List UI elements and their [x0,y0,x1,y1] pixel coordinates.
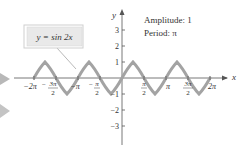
x-tick-neg-3pi2-num: 3π [48,80,57,88]
x-tick-3pi2-den: 2 [186,89,190,97]
x-tick-pi: π [166,82,171,91]
y-axis-label: y [111,10,116,20]
amplitude-annotation: Amplitude: 1 [144,15,192,25]
y-tick-neg1: −1 [110,90,119,99]
x-axis-label: x [231,72,236,82]
x-tick-pi2-num: π [142,80,146,88]
left-arrow-icon [0,73,10,85]
x-tick-neg-pi: −π [70,82,80,91]
x-tick-neg-3pi2-minus: − [42,81,46,89]
y-tick-3: 3 [115,26,119,35]
y-tick-neg2: −2 [110,106,119,115]
x-tick-neg-pi2-minus: − [89,81,93,89]
function-label-box: y = sin 2x [24,25,83,48]
x-tick-neg-3pi2-den: 2 [51,89,55,97]
sine-graph: 3 2 1 −1 −2 −3 −2π − 3π 2 −π − π 2 π 2 π… [0,0,239,150]
left-arrow-icon [0,104,10,118]
x-tick-2pi: 2π [208,82,217,91]
x-tick-3pi2-num: 3π [183,80,192,88]
y-tick-2: 2 [115,42,119,51]
y-tick-labels: 3 2 1 −1 −2 −3 [110,26,119,131]
x-tick-neg-pi2-den: 2 [95,89,99,97]
y-tick-1: 1 [115,58,119,67]
x-tick-pi2-den: 2 [142,89,146,97]
function-label: y = sin 2x [36,32,73,42]
x-tick-neg-pi2-num: π [95,80,99,88]
period-annotation: Period: π [144,28,177,38]
x-tick-neg-2pi: −2π [23,82,37,91]
leader-line [57,48,76,69]
y-tick-neg3: −3 [110,122,119,131]
